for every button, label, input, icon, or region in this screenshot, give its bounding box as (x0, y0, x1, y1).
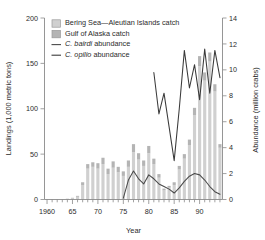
left-tick-label: 200 (26, 14, 38, 23)
right-tick-label: 6 (229, 117, 233, 126)
bar-segment (112, 168, 115, 200)
bar-segment (157, 178, 160, 200)
legend-label: C. bairdi abundance (65, 39, 130, 48)
x-tick-label: 75 (119, 207, 127, 216)
bar-segment (106, 169, 109, 174)
bar-segment (132, 152, 135, 199)
bar-segment (117, 172, 120, 199)
bar-segment (142, 160, 145, 165)
bar-segment (157, 174, 160, 178)
bar-segment (173, 182, 176, 185)
legend-label: Gulf of Alaska catch (65, 29, 130, 38)
bar-segment (178, 170, 181, 200)
right-tick-label: 12 (229, 40, 237, 49)
bar-segment (152, 159, 155, 164)
crab-landings-abundance-chart: 050100150200 Landings (1,000 metric tons… (0, 0, 265, 240)
bar-segment (81, 185, 84, 200)
left-axis-ticks: 050100150200 (26, 14, 45, 205)
left-axis-label: Landings (1,000 metric tons) (4, 62, 13, 156)
bar-segment (168, 186, 171, 188)
legend-item: C. opilio abundance (52, 50, 130, 59)
bar-segment (132, 144, 135, 152)
bar-segment (183, 159, 186, 200)
bar-segment (137, 153, 140, 159)
x-axis-ticks: 1960657075808590 (39, 200, 220, 217)
bar-segment (96, 169, 99, 200)
legend-item: Gulf of Alaska catch (52, 29, 130, 38)
bar-segment (218, 148, 221, 200)
bar-segment (91, 162, 94, 167)
right-tick-label: 14 (229, 14, 237, 23)
right-axis-label: Abundance (million crabs) (251, 67, 260, 152)
bar-segment (101, 164, 104, 199)
bar-segment (81, 182, 84, 185)
left-tick-label: 0 (34, 195, 38, 204)
x-axis: 1960657075808590 Year (39, 200, 222, 236)
x-tick-label: 65 (68, 207, 76, 216)
chart-legend: Bering Sea—Aleutian Islands catchGulf of… (52, 18, 180, 59)
x-tick-label: 80 (145, 207, 153, 216)
left-tick-label: 100 (26, 104, 38, 113)
left-tick-label: 50 (30, 150, 38, 159)
bar-segment (86, 169, 89, 200)
legend-swatch (52, 20, 60, 27)
bar-segment (208, 52, 211, 61)
bar-segment (193, 108, 196, 115)
bar-segment (193, 115, 196, 199)
x-tick-label: 85 (170, 207, 178, 216)
bar-segment (117, 167, 120, 172)
x-tick-label: 1960 (39, 207, 55, 216)
bar-segment (183, 154, 186, 159)
legend-item: Bering Sea—Aleutian Islands catch (52, 18, 179, 27)
right-axis-ticks: 02468101214 (223, 14, 238, 205)
legend-item: C. bairdi abundance (52, 39, 131, 48)
bar-segment (127, 160, 130, 166)
right-tick-label: 8 (229, 91, 233, 100)
bar-segment (101, 158, 104, 164)
legend-swatch (52, 30, 60, 37)
left-tick-label: 150 (26, 59, 38, 68)
bars-layer (66, 52, 222, 199)
chart-figure: 050100150200 Landings (1,000 metric tons… (0, 0, 265, 240)
bar-segment (162, 190, 165, 199)
right-tick-label: 4 (229, 143, 233, 152)
bar-segment (76, 196, 79, 197)
bar-segment (213, 92, 216, 200)
bar-segment (112, 161, 115, 167)
bar-segment (96, 163, 99, 168)
bar-segment (122, 171, 125, 176)
x-axis-label: Year (126, 226, 141, 235)
right-tick-label: 0 (229, 195, 233, 204)
left-axis: 050100150200 Landings (1,000 metric tons… (4, 14, 45, 205)
bar-segment (162, 189, 165, 191)
bar-segment (147, 146, 150, 153)
legend-label: Bering Sea—Aleutian Islands catch (65, 18, 179, 27)
bar-segment (91, 167, 94, 200)
bar-segment (106, 174, 109, 199)
x-tick-label: 70 (94, 207, 102, 216)
legend-label: C. opilio abundance (65, 50, 130, 59)
bar-segment (218, 144, 221, 148)
bar-segment (203, 72, 206, 80)
bar-segment (198, 56, 201, 66)
right-tick-label: 2 (229, 169, 233, 178)
right-tick-label: 10 (229, 65, 237, 74)
bar-segment (188, 140, 191, 145)
bar-segment (188, 145, 191, 199)
x-tick-label: 90 (196, 207, 204, 216)
right-axis: 02468101214 Abundance (million crabs) (223, 14, 261, 205)
bar-segment (86, 164, 89, 169)
bar-segment (178, 166, 181, 170)
bar-segment (213, 84, 216, 91)
bar-segment (152, 164, 155, 199)
